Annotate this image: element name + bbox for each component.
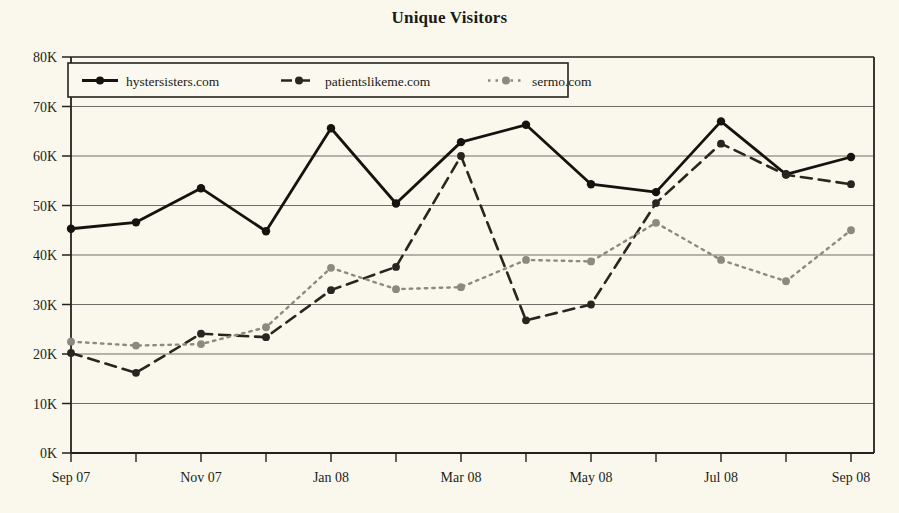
legend-label: sermo.com — [532, 74, 592, 89]
y-tick-label: 10K — [33, 397, 57, 412]
y-tick-label: 30K — [33, 298, 57, 313]
x-axis-tick-labels: Sep 07Nov 07Jan 08Mar 08May 08Jul 08Sep … — [52, 470, 871, 485]
data-point — [587, 180, 595, 188]
data-point — [392, 199, 400, 207]
data-point — [717, 140, 725, 148]
data-point — [67, 225, 75, 233]
x-axis-tick-marks — [71, 453, 851, 462]
data-point — [457, 138, 465, 146]
x-tick-label: Nov 07 — [180, 470, 222, 485]
y-tick-label: 80K — [33, 50, 57, 65]
data-point — [652, 188, 660, 196]
legend-marker — [96, 77, 104, 85]
data-point — [262, 333, 270, 341]
data-point — [457, 283, 465, 291]
legend-marker — [502, 77, 510, 85]
x-tick-label: Mar 08 — [441, 470, 482, 485]
x-tick-label: Sep 08 — [832, 470, 871, 485]
data-point — [197, 184, 205, 192]
data-point — [587, 301, 595, 309]
x-tick-label: May 08 — [569, 470, 612, 485]
x-tick-label: Sep 07 — [52, 470, 91, 485]
data-point — [392, 263, 400, 271]
y-tick-label: 20K — [33, 347, 57, 362]
data-point — [587, 258, 595, 266]
y-tick-label: 50K — [33, 199, 57, 214]
data-point — [132, 369, 140, 377]
data-point — [717, 256, 725, 264]
data-point — [847, 226, 855, 234]
data-point — [197, 340, 205, 348]
legend-marker — [295, 77, 303, 85]
data-point — [327, 124, 335, 132]
data-point — [717, 117, 725, 125]
data-point — [457, 152, 465, 160]
chart-plot-area: 0K10K20K30K40K50K60K70K80K Sep 07Nov 07J… — [0, 0, 899, 513]
chart-legend: hystersisters.compatientslikeme.comsermo… — [68, 63, 592, 97]
data-point — [67, 349, 75, 357]
data-point — [327, 264, 335, 272]
data-point — [847, 180, 855, 188]
data-point — [782, 171, 790, 179]
data-point — [67, 338, 75, 346]
legend-label: patientslikeme.com — [325, 74, 431, 89]
gridlines — [71, 57, 874, 453]
data-point — [262, 323, 270, 331]
series-line-patientslikeme-com — [71, 144, 851, 373]
data-point — [132, 218, 140, 226]
data-point — [652, 219, 660, 227]
data-point — [847, 153, 855, 161]
data-point — [782, 277, 790, 285]
data-point — [652, 199, 660, 207]
x-tick-label: Jul 08 — [704, 470, 738, 485]
y-tick-label: 40K — [33, 248, 57, 263]
data-point — [327, 286, 335, 294]
data-point — [132, 342, 140, 350]
unique-visitors-chart: Unique Visitors 0K10K20K30K40K50K60K70K8… — [0, 0, 899, 513]
y-axis-tick-marks — [62, 57, 71, 453]
data-point — [197, 330, 205, 338]
y-tick-label: 0K — [40, 446, 57, 461]
x-tick-label: Jan 08 — [313, 470, 349, 485]
data-point — [392, 285, 400, 293]
y-tick-label: 60K — [33, 149, 57, 164]
y-axis-tick-labels: 0K10K20K30K40K50K60K70K80K — [33, 50, 57, 461]
data-point — [522, 316, 530, 324]
series-line-hystersisters-com — [71, 121, 851, 231]
y-tick-label: 70K — [33, 100, 57, 115]
data-point — [262, 227, 270, 235]
data-point — [522, 121, 530, 129]
data-point — [522, 256, 530, 264]
legend-label: hystersisters.com — [126, 74, 220, 89]
